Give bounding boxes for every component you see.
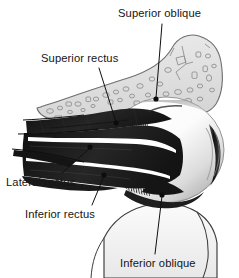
anatomy-illustration [0,0,239,278]
eye-muscle-anatomy-figure: Superior oblique Superior rectus Lateral… [0,0,239,278]
label-inferior-rectus: Inferior rectus [25,208,95,221]
anchor-inferior-oblique [159,192,164,197]
anchor-lateral-rectus [87,144,92,149]
label-superior-rectus: Superior rectus [41,52,118,65]
anchor-inferior-rectus [101,172,106,177]
label-lateral-rectus: Lateral rectus [6,176,75,189]
anchor-superior-oblique [153,96,158,101]
anchor-superior-rectus [113,120,118,125]
label-superior-oblique: Superior oblique [118,7,201,20]
label-inferior-oblique: Inferior oblique [120,257,196,270]
